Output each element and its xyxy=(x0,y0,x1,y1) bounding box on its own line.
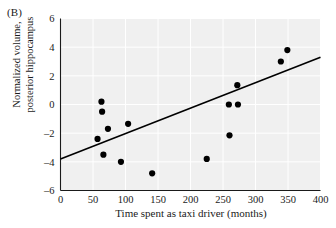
data-point xyxy=(284,47,290,53)
data-point xyxy=(98,99,104,105)
svg-text:–4: –4 xyxy=(43,157,55,168)
svg-text:250: 250 xyxy=(215,194,231,205)
data-point xyxy=(105,126,111,132)
data-point xyxy=(149,170,155,176)
data-point xyxy=(278,58,284,64)
svg-text:300: 300 xyxy=(248,194,264,205)
data-point xyxy=(94,136,100,142)
svg-text:–2: –2 xyxy=(43,128,55,139)
data-point xyxy=(125,121,131,127)
y-axis-ticks: –6–4–20246 xyxy=(43,13,55,196)
svg-text:2: 2 xyxy=(49,71,54,82)
data-point xyxy=(226,101,232,107)
data-point xyxy=(118,159,124,165)
svg-text:–6: –6 xyxy=(43,185,55,196)
svg-text:200: 200 xyxy=(183,194,199,205)
svg-text:0: 0 xyxy=(49,99,54,110)
data-point xyxy=(235,101,241,107)
svg-text:6: 6 xyxy=(49,13,54,24)
svg-text:100: 100 xyxy=(118,194,134,205)
data-point xyxy=(204,156,210,162)
svg-text:4: 4 xyxy=(49,42,55,53)
svg-text:350: 350 xyxy=(280,194,296,205)
x-axis-ticks: 050100150200250300350400 xyxy=(58,194,329,205)
svg-text:150: 150 xyxy=(150,194,166,205)
figure-panel-b: (B) Normalized volume, posterior hippoca… xyxy=(0,0,336,228)
data-point xyxy=(100,152,106,158)
svg-text:50: 50 xyxy=(88,194,99,205)
scatter-plot: 050100150200250300350400 –6–4–20246 xyxy=(0,0,336,228)
data-point xyxy=(99,109,105,115)
svg-text:400: 400 xyxy=(313,194,329,205)
data-point xyxy=(226,132,232,138)
data-point xyxy=(234,82,240,88)
svg-text:0: 0 xyxy=(58,194,63,205)
